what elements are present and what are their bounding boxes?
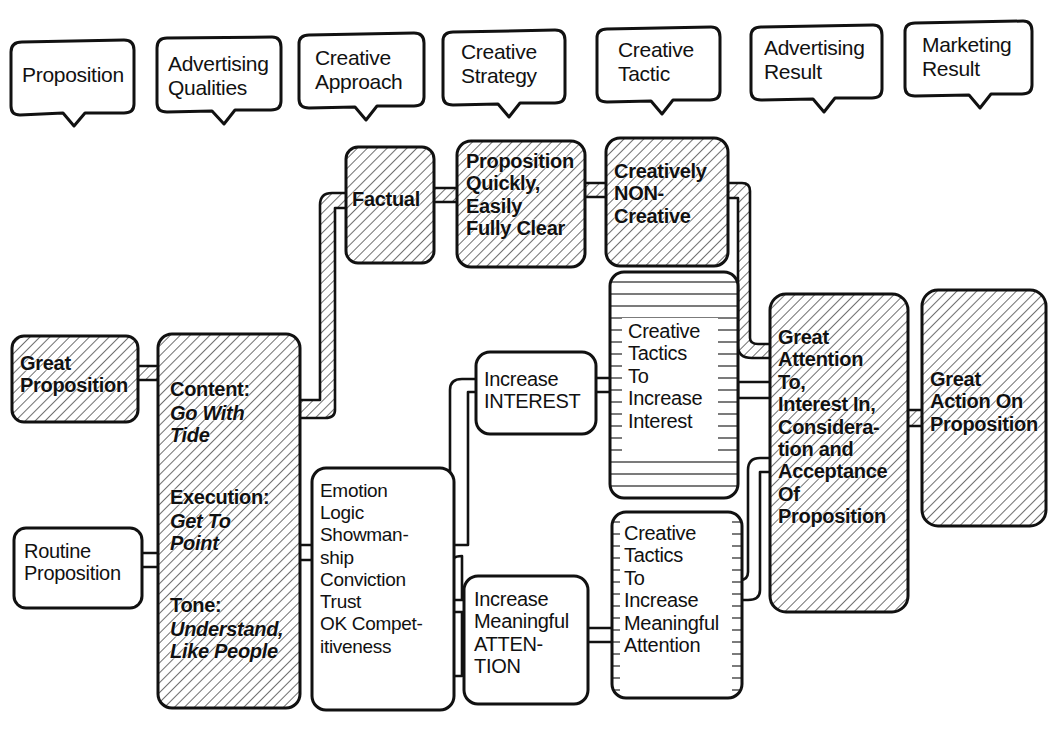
header-advertising-result: Advertising Result	[764, 36, 865, 83]
factual-label: Factual	[352, 188, 420, 210]
qualities-execution-value: Get To Point	[170, 510, 231, 555]
tactics-attention-label: Creative Tactics To Increase Meaningful …	[624, 522, 719, 656]
qualities-tone-title: Tone:	[170, 594, 221, 616]
marketing-result-label: Great Action On Proposition	[930, 368, 1038, 435]
great-proposition-label: Great Proposition	[20, 352, 128, 397]
qualities-content-title: Content:	[170, 378, 250, 400]
qualities-execution-title: Execution:	[170, 486, 269, 508]
tactics-interest-label: Creative Tactics To Increase Interest	[628, 320, 702, 432]
emotion-list-label: Emotion Logic Showman- ship Conviction T…	[320, 480, 423, 658]
header-creative-strategy: Creative Strategy	[461, 40, 537, 87]
header-creative-tactic: Creative Tactic	[618, 38, 694, 85]
creatively-non-creative-label: Creatively NON- Creative	[614, 160, 707, 227]
routine-proposition-label: Routine Proposition	[24, 540, 121, 585]
header-creative-approach: Creative Approach	[315, 46, 403, 93]
advertising-result-label: Great Attention To, Interest In, Conside…	[778, 326, 887, 528]
increase-interest-label: Increase INTEREST	[484, 368, 581, 413]
qualities-tone-value: Understand, Like People	[170, 618, 283, 663]
header-marketing-result: Marketing Result	[922, 33, 1012, 80]
header-advertising-qualities: Advertising Qualities	[168, 52, 269, 99]
qualities-content-value: Go With Tide	[170, 402, 244, 447]
header-proposition: Proposition	[22, 63, 124, 87]
strategy-clear-label: Proposition Quickly, Easily Fully Clear	[466, 150, 574, 240]
increase-attention-label: Increase Meaningful ATTEN- TION	[474, 588, 569, 678]
